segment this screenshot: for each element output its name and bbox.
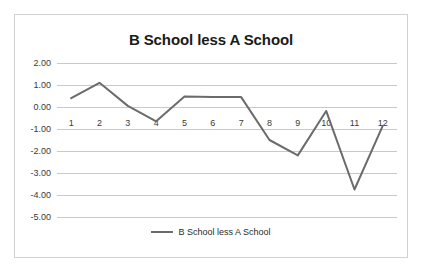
y-axis-tick-label: -5.00 [30, 212, 51, 222]
legend-entry-label: B School less A School [178, 227, 270, 237]
y-axis-tick-label: 1.00 [33, 80, 51, 90]
chart-title: B School less A School [15, 31, 407, 48]
y-axis-tick-label: -1.00 [30, 124, 51, 134]
series-line-group [57, 63, 397, 217]
y-axis-tick-label: -2.00 [30, 146, 51, 156]
series-line [71, 83, 383, 190]
gridline [57, 217, 397, 218]
y-axis-tick-label: 2.00 [33, 58, 51, 68]
y-axis-tick-label: -3.00 [30, 168, 51, 178]
y-axis-tick-label: -4.00 [30, 190, 51, 200]
plot-area: 2.001.000.00-1.00-2.00-3.00-4.00-5.00 12… [57, 63, 397, 217]
chart-legend: B School less A School [15, 227, 407, 237]
y-axis-tick-label: 0.00 [33, 102, 51, 112]
legend-line-swatch-icon [151, 231, 173, 233]
chart-container: B School less A School 2.001.000.00-1.00… [14, 14, 408, 258]
